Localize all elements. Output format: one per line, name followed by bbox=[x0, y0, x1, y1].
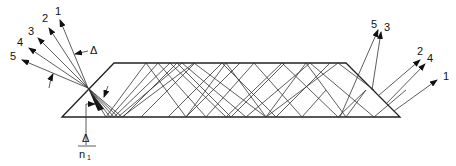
output-label-3: 3 bbox=[384, 21, 390, 33]
input-label-5: 5 bbox=[10, 50, 16, 62]
reflected-ray-path bbox=[122, 63, 374, 117]
angle-arc-arrow bbox=[49, 74, 53, 88]
delta-label: Δ bbox=[90, 44, 98, 56]
output-rays bbox=[340, 30, 437, 117]
input-label-3: 3 bbox=[28, 25, 34, 37]
output-label-5: 5 bbox=[371, 18, 377, 30]
output-label-2: 2 bbox=[417, 45, 423, 57]
fan-pointer-arrow bbox=[104, 86, 108, 97]
input-label-1: 1 bbox=[55, 5, 61, 17]
input-label-4: 4 bbox=[17, 36, 23, 48]
waveguide-diagram: 1 2 3 4 5 Δ 5 3 2 4 1 Δ n 1 bbox=[0, 0, 456, 166]
internal-spread-numerator: Δ bbox=[82, 132, 90, 144]
internal-reflections bbox=[106, 63, 406, 117]
input-ray-4 bbox=[29, 48, 88, 88]
delta-pointer bbox=[75, 51, 88, 54]
input-ray-3 bbox=[38, 38, 88, 88]
internal-spread-subscript: 1 bbox=[87, 154, 91, 161]
input-label-2: 2 bbox=[42, 12, 48, 24]
input-ray-2 bbox=[49, 28, 88, 88]
output-ray-1 bbox=[394, 80, 437, 111]
output-label-1: 1 bbox=[443, 70, 449, 82]
output-label-4: 4 bbox=[427, 52, 433, 64]
reflected-ray-path bbox=[141, 63, 195, 117]
internal-spread-denominator: n bbox=[79, 148, 85, 160]
